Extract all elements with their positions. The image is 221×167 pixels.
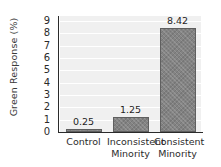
x-axis-category-label-line: Control: [60, 136, 107, 148]
y-axis-tick-label: 3: [28, 90, 50, 100]
y-axis-tick-label: 7: [28, 41, 50, 51]
y-axis-tick-label: 6: [28, 53, 50, 63]
bar-value-label: 8.42: [158, 16, 198, 26]
y-axis-tick-label: 5: [28, 65, 50, 75]
x-axis-category-label: InconsistentMinority: [107, 136, 154, 160]
y-axis-tick-label: 4: [28, 78, 50, 88]
plot-area: 0.251.258.42: [60, 16, 201, 132]
y-axis-tick-label: 1: [28, 115, 50, 125]
y-axis-tick-label: 2: [28, 102, 50, 112]
bar: [160, 28, 196, 132]
x-axis-category-labels: ControlInconsistentMinorityConsistentMin…: [60, 136, 201, 166]
y-axis-tick-labels: 0123456789: [28, 0, 50, 167]
x-axis-category-label: ConsistentMinority: [154, 136, 201, 160]
x-axis-category-label-line: Inconsistent: [107, 136, 154, 148]
y-axis-tick-label: 8: [28, 28, 50, 38]
x-axis-category-label-line: Minority: [107, 148, 154, 160]
y-axis-tick-label: 9: [28, 16, 50, 26]
y-axis-tick-label: 0: [28, 127, 50, 137]
bar-series: 0.251.258.42: [60, 16, 201, 132]
x-axis-category-label-line: Minority: [154, 148, 201, 160]
x-axis-category-label: Control: [60, 136, 107, 148]
bar-value-label: 1.25: [111, 105, 151, 115]
bar-chart-figure: Green Response (%) 0123456789 0.251.258.…: [0, 0, 221, 167]
x-axis-category-label-line: Consistent: [154, 136, 201, 148]
bar-value-label: 0.25: [64, 117, 104, 127]
y-axis-line: [58, 16, 59, 133]
bar: [113, 117, 149, 132]
y-axis-title: Green Response (%): [7, 2, 21, 132]
x-axis-line: [58, 132, 203, 133]
